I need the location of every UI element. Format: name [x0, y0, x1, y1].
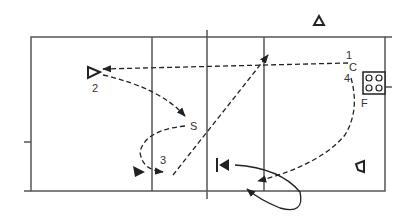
player-1-label: 1	[346, 50, 352, 61]
ball-cart-icon	[363, 72, 385, 94]
court-diagram	[0, 0, 413, 220]
blocker-icon	[217, 158, 229, 172]
player-3-label: 3	[160, 155, 166, 166]
setter-label: S	[190, 121, 197, 132]
player-2-label: 2	[92, 83, 98, 94]
coach-label: C	[349, 62, 357, 73]
court-lines	[24, 30, 392, 199]
open-triangle-icon	[356, 161, 364, 172]
open-triangle-icon	[88, 67, 100, 78]
feeder-label: F	[361, 98, 368, 109]
solid-loop-path	[235, 165, 301, 210]
open-triangle-icon	[314, 16, 324, 25]
player-4-label: 4	[344, 73, 350, 84]
filled-triangle-icon	[133, 166, 145, 177]
